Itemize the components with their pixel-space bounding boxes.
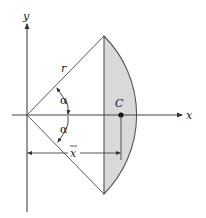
xbar-label: x (70, 147, 77, 160)
radius-label: r (61, 62, 67, 75)
y-axis-label: y (22, 10, 30, 23)
circular-segment-centroid-diagram: y x r α α C x (0, 0, 206, 218)
angle-label-lower: α (60, 123, 68, 136)
angle-label-upper: α (60, 94, 68, 107)
centroid-label: C (115, 97, 124, 110)
x-axis-label: x (186, 109, 193, 122)
